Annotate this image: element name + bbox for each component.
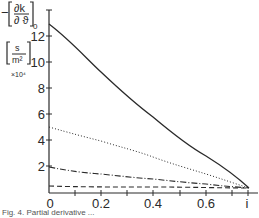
unit-numerator: s <box>15 43 20 53</box>
x-tick-0.2: 0.2 <box>92 196 110 211</box>
y-tick-4: 4 <box>38 133 45 148</box>
series-dashed <box>49 186 249 188</box>
y-axis-numerator: ∂k <box>14 2 25 14</box>
y-tick-10: 10 <box>31 55 45 70</box>
y-scale-note: ×10⁴ <box>11 71 26 78</box>
y-axis-minus: − <box>1 5 9 20</box>
y-tick-12: 12 <box>31 29 45 44</box>
y-axis-denominator: ∂ ϑ <box>14 14 29 26</box>
figure-caption: Fig. 4. Partial derivative ... <box>2 208 94 217</box>
y-tick-8: 8 <box>38 81 45 96</box>
series-solid <box>49 24 249 188</box>
y-tick-6: 6 <box>38 107 45 122</box>
x-tick-0.4: 0.4 <box>144 196 162 211</box>
line-chart: − ∂k ∂ ϑ 0 s m² ×10⁴ 2 4 6 8 10 12 <box>0 0 259 218</box>
x-tick-i: i <box>246 196 249 211</box>
y-tick-labels: 2 4 6 8 10 12 <box>31 29 45 174</box>
series-dash-dot <box>49 167 249 188</box>
unit-denominator: m² <box>12 55 23 65</box>
y-tick-2: 2 <box>38 159 45 174</box>
plot-area <box>49 24 249 188</box>
x-tick-0.6: 0.6 <box>197 196 215 211</box>
